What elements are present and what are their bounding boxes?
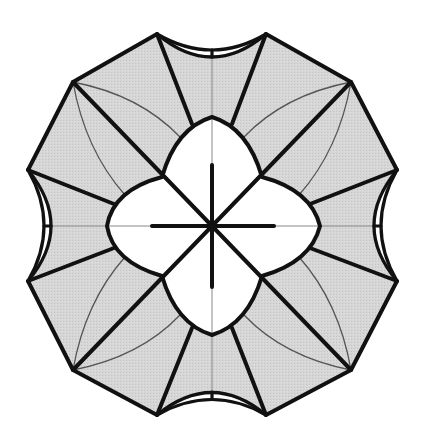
center-point (209, 223, 216, 230)
origami-diagram (0, 0, 425, 442)
origami-diagram-svg (0, 0, 425, 442)
